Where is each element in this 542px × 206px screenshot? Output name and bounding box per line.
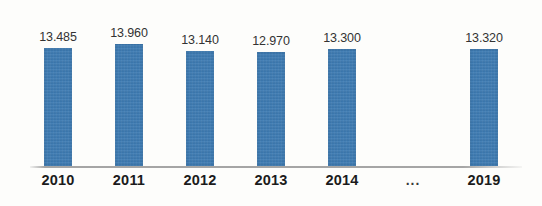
bar-value-label: 13.300 [323,31,361,45]
category-label-2011: 2011 [101,172,157,188]
bar-slot-ellipsis [385,14,441,166]
bar-value-label: 12.970 [252,34,290,48]
bar-2019[interactable] [470,49,498,166]
bar-slot-2011[interactable]: 13.960 [101,14,157,166]
category-label-2013: 2013 [243,172,299,188]
bar-slot-2010[interactable]: 13.485 [30,14,86,166]
bar-chart: 13.485 13.960 13.140 12.970 13.300 13.32… [0,0,542,206]
bar-slot-2012[interactable]: 13.140 [172,14,228,166]
category-label-ellipsis: ... [385,172,441,188]
category-label-2014: 2014 [314,172,370,188]
x-axis-line [30,166,522,168]
bar-slot-2019[interactable]: 13.320 [456,14,512,166]
bar-value-label: 13.960 [110,26,148,40]
bar-2011[interactable] [115,44,143,166]
category-label-2019: 2019 [456,172,512,188]
bar-value-label: 13.485 [39,30,77,44]
bar-value-label: 13.140 [181,33,219,47]
bar-slot-2014[interactable]: 13.300 [314,14,370,166]
bar-2014[interactable] [328,49,356,166]
bar-value-label: 13.320 [465,31,503,45]
bar-2013[interactable] [257,52,285,166]
category-label-2012: 2012 [172,172,228,188]
bar-slot-2013[interactable]: 12.970 [243,14,299,166]
bar-2012[interactable] [186,51,214,166]
x-axis-category-labels: 2010 2011 2012 2013 2014 ... 2019 [30,172,512,200]
category-label-2010: 2010 [30,172,86,188]
plot-area: 13.485 13.960 13.140 12.970 13.300 13.32… [30,14,512,166]
bar-2010[interactable] [44,48,72,166]
